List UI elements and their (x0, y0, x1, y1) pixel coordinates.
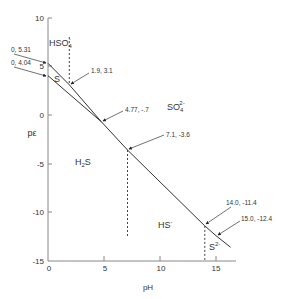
annotation-label: 1.9, 3.1 (91, 67, 113, 74)
x-tick-label: 15 (212, 264, 221, 273)
annotation-label: 15.0, -12.4 (241, 215, 272, 222)
y-axis (48, 18, 52, 261)
boundary-lines (48, 63, 231, 247)
y-tick-label: -15 (32, 257, 44, 266)
annotation-label: 7.1, -3.6 (166, 131, 190, 138)
y-axis-label: pε (27, 128, 36, 138)
dashed-dividers (69, 37, 205, 261)
region-label-s: S (54, 74, 60, 84)
annotation-label: 0, 5.31 (11, 46, 31, 53)
region-label-hso4: HSO4- (49, 36, 73, 49)
y-tick-label: -5 (37, 160, 45, 169)
y-tick-label: 10 (35, 14, 44, 23)
annotation-label: 0, 4.04 (11, 59, 31, 66)
x-tick-label: 10 (157, 264, 166, 273)
x-axis (48, 256, 236, 261)
region-label-so4: SO42- (167, 100, 185, 113)
x-tick-label: 5 (103, 264, 108, 273)
region-label-h2s: H2S (75, 157, 91, 168)
annotation-label: 4.77, -.7 (125, 106, 149, 113)
annotation-label: 14.0, -11.4 (226, 199, 257, 206)
region-label-s2: S2- (209, 241, 220, 252)
pe-ph-diagram: 10 5 0 -5 -10 -15 0 5 10 15 pH pε 0, 5.3… (0, 0, 286, 299)
y-tick-label: -10 (32, 208, 44, 217)
region-label-hs: HS- (158, 219, 173, 230)
y-tick-label: 5 (40, 62, 45, 71)
x-axis-label: pH (143, 283, 153, 292)
x-tick-label: 0 (47, 264, 52, 273)
y-tick-label: 0 (40, 111, 45, 120)
